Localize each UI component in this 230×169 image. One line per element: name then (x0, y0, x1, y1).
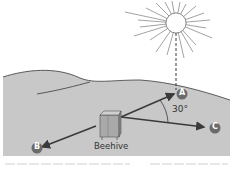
bottom-margin (0, 156, 230, 169)
beehive-icon (100, 111, 121, 140)
marker-a-label: A (178, 88, 186, 97)
marker-b-label: B (33, 142, 41, 151)
angle-label: 30° (172, 104, 188, 114)
marker-c-label: C (211, 122, 219, 131)
beehive-label: Beehive (94, 141, 128, 151)
sun-icon (125, 1, 212, 58)
